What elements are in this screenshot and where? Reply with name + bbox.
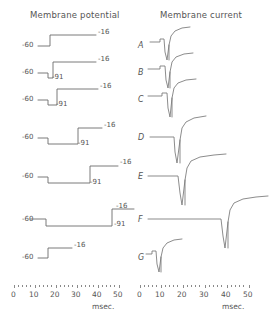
axis-left-tick-40: 40 [92, 290, 102, 299]
axis-left-tick-50: 50 [113, 290, 123, 299]
trace-g-current [146, 239, 182, 272]
axis-right-tick-10: 10 [155, 290, 165, 299]
axis-left-tick-20: 20 [50, 290, 60, 299]
axis-left-unit: msec. [92, 302, 114, 311]
axis-left-tick-0: 0 [11, 290, 16, 299]
axis-ticks-left [14, 285, 124, 288]
axis-ticks-right [140, 285, 252, 288]
axis-right-tick-40: 40 [221, 290, 231, 299]
axis-right-tick-30: 30 [199, 290, 209, 299]
axis-right-tick-20: 20 [177, 290, 187, 299]
axis-right-tick-0: 0 [137, 290, 142, 299]
axis-right-unit: msec. [222, 302, 244, 311]
trace-g-current-svg [0, 0, 270, 323]
axis-left-tick-10: 10 [29, 290, 39, 299]
axis-right-tick-50: 50 [243, 290, 253, 299]
axis-left-tick-30: 30 [71, 290, 81, 299]
figure-container: Membrane potential Membrane current A -6… [0, 0, 270, 323]
